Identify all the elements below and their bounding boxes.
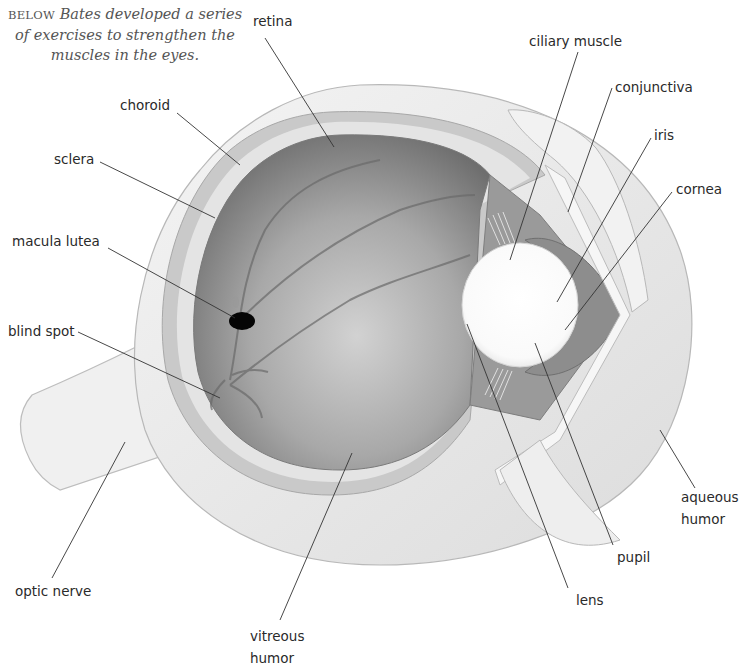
- label-aqueous-humor: aqueous humor: [681, 486, 739, 530]
- label-lens: lens: [576, 589, 604, 611]
- label-conjunctiva: conjunctiva: [615, 76, 693, 98]
- label-choroid: choroid: [120, 94, 170, 116]
- label-sclera: sclera: [54, 148, 94, 170]
- label-iris: iris: [654, 124, 674, 146]
- lens-shape: [462, 243, 578, 367]
- label-optic-nerve: optic nerve: [15, 580, 91, 602]
- macula-lutea-spot: [229, 312, 255, 330]
- label-pupil: pupil: [617, 546, 650, 568]
- label-ciliary-muscle: ciliary muscle: [529, 30, 622, 52]
- label-aqueous-humor-line2: humor: [681, 511, 725, 527]
- label-blind-spot: blind spot: [8, 320, 75, 342]
- label-vitreous-humor: vitreous humor: [250, 625, 304, 669]
- label-vitreous-humor-line1: vitreous: [250, 628, 304, 644]
- label-cornea: cornea: [676, 178, 722, 200]
- label-macula-lutea: macula lutea: [12, 230, 100, 252]
- label-retina: retina: [253, 10, 292, 32]
- eye-cross-section-illustration: [0, 0, 751, 670]
- label-vitreous-humor-line2: humor: [250, 650, 294, 666]
- label-aqueous-humor-line1: aqueous: [681, 489, 739, 505]
